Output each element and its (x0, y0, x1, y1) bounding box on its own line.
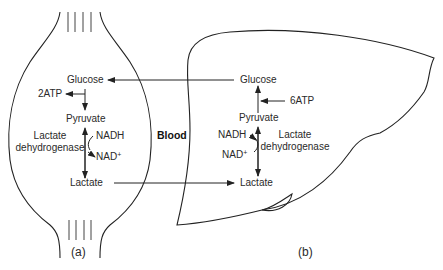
muscle-lactate-label: Lactate (70, 177, 103, 189)
liver-lactate-label: Lactate (240, 177, 273, 189)
muscle-pyruvate-label: Pyruvate (66, 113, 105, 125)
liver-enzyme-line2: dehydrogenase (260, 141, 330, 153)
liver-nadh-label: NADH (218, 129, 246, 141)
liver-atp-label: 6ATP (290, 95, 314, 107)
muscle-nad-label: NAD+ (96, 151, 121, 163)
muscle-enzyme-label: Lactate dehydrogenase (14, 130, 86, 154)
muscle-tendon-bottom (69, 220, 91, 240)
liver-nad-superscript: + (243, 149, 247, 156)
liver-pyruvate-label: Pyruvate (239, 112, 278, 124)
liver-enzyme-label: Lactate dehydrogenase (260, 129, 330, 153)
liver-glucose-label: Glucose (240, 74, 277, 86)
muscle-enzyme-line1: Lactate (14, 130, 86, 142)
liver-enzyme-line1: Lactate (260, 129, 330, 141)
muscle-nadh-label: NADH (96, 130, 124, 142)
liver-nad-text: NAD (222, 149, 243, 160)
liver-nad-label: NAD+ (222, 149, 247, 161)
muscle-glucose-label: Glucose (67, 74, 104, 86)
muscle-tendon-top (68, 12, 91, 32)
liver-outline (177, 30, 434, 225)
muscle-atp-label: 2ATP (38, 88, 62, 100)
muscle-nad-superscript: + (117, 151, 121, 158)
muscle-caption: (a) (71, 246, 86, 258)
blood-label: Blood (157, 129, 187, 141)
liver-caption: (b) (298, 246, 313, 258)
muscle-nad-text: NAD (96, 151, 117, 162)
muscle-enzyme-line2: dehydrogenase (14, 142, 86, 154)
